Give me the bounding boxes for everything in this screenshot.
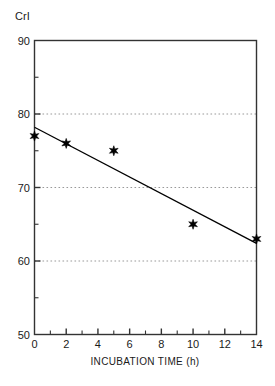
- x-tick-label: 2: [54, 338, 78, 350]
- x-axis-title: INCUBATION TIME (h): [34, 356, 256, 368]
- x-tick-label: 6: [118, 338, 142, 350]
- x-tick-label: 14: [245, 338, 269, 350]
- x-tick-label: 8: [149, 338, 173, 350]
- chart-figure: CrI 5060708090 02468101214 INCUBATION TI…: [0, 0, 275, 386]
- x-tick-label: 10: [181, 338, 205, 350]
- x-tick-label: 4: [86, 338, 110, 350]
- x-tick-label: 0: [23, 338, 47, 350]
- x-tick-label: 12: [213, 338, 237, 350]
- x-tick-labels: 02468101214: [0, 0, 275, 386]
